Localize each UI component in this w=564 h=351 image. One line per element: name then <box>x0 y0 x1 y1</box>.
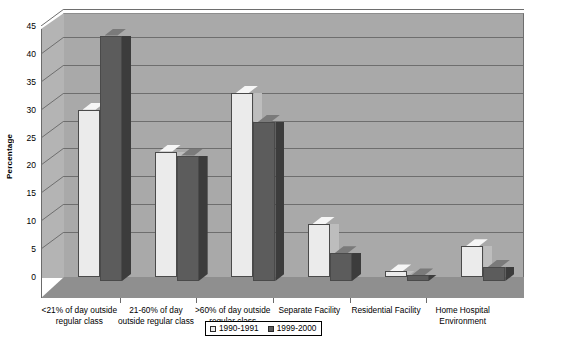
x-axis-tick-mark <box>273 298 274 303</box>
bar-top-face <box>159 145 181 152</box>
bar-front-face <box>155 152 177 278</box>
chart-legend: 1990-1991 1999-2000 <box>205 321 322 336</box>
bar-front-face <box>330 253 352 281</box>
y-axis-tick-label: 30 <box>14 106 36 114</box>
x-axis-tick-mark <box>196 298 197 303</box>
gridline <box>64 9 524 10</box>
bar[interactable] <box>461 246 483 277</box>
bar-front-face <box>461 246 483 277</box>
bar-side-face <box>505 267 514 281</box>
bar-series-container <box>41 13 524 298</box>
legend-label: 1990-1991 <box>219 324 259 333</box>
x-axis-tick-mark <box>350 298 351 303</box>
legend-label: 1999-2000 <box>277 324 317 333</box>
bar-top-face <box>105 29 127 36</box>
legend-item-1990-1991[interactable]: 1990-1991 <box>210 324 259 333</box>
y-axis-tick-label: 25 <box>14 134 36 142</box>
bar[interactable] <box>231 93 253 277</box>
legend-swatch-icon <box>268 326 274 332</box>
bar-front-face <box>483 267 505 281</box>
bar-front-face <box>385 271 407 277</box>
bar-top-face <box>236 86 258 93</box>
y-axis-tick-label: 45 <box>14 22 36 30</box>
bar[interactable] <box>483 267 505 281</box>
bar-side-face <box>352 253 361 281</box>
bar-top-face <box>411 268 433 275</box>
bar[interactable] <box>155 152 177 278</box>
plot-area <box>41 13 524 298</box>
bar[interactable] <box>100 36 122 281</box>
bar[interactable] <box>177 156 199 282</box>
bar-front-face <box>308 224 330 277</box>
bar[interactable] <box>385 271 407 277</box>
x-axis-tick-mark <box>120 298 121 303</box>
bar-chart: Percentage 051015202530354045 <21% of da… <box>0 0 564 351</box>
bar-side-face <box>199 156 208 282</box>
x-axis-tick-mark <box>426 298 427 303</box>
y-axis-tick-label: 40 <box>14 50 36 58</box>
bar[interactable] <box>78 110 100 277</box>
x-axis-ticks <box>41 298 524 304</box>
bar-front-face <box>100 36 122 281</box>
bar[interactable] <box>330 253 352 281</box>
y-axis-tick-label: 15 <box>14 189 36 197</box>
y-axis-tick-labels: 051015202530354045 <box>10 0 36 351</box>
y-axis-tick-label: 35 <box>14 78 36 86</box>
x-axis-category-label: Home Hospital Environment <box>410 305 515 326</box>
bar-top-face <box>313 217 335 224</box>
bar-front-face <box>231 93 253 277</box>
y-axis-tick-label: 10 <box>14 217 36 225</box>
bar[interactable] <box>308 224 330 277</box>
bar-front-face <box>78 110 100 277</box>
bar-side-face <box>122 36 131 281</box>
bar-side-face <box>275 122 284 281</box>
y-axis-tick-label: 0 <box>14 273 36 281</box>
bar[interactable] <box>253 122 275 281</box>
legend-swatch-icon <box>210 326 216 332</box>
legend-item-1999-2000[interactable]: 1999-2000 <box>268 324 317 333</box>
bar-front-face <box>177 156 199 282</box>
bar-side-face <box>429 275 438 281</box>
y-axis-tick-label: 20 <box>14 161 36 169</box>
bar-front-face <box>253 122 275 281</box>
bar-top-face <box>466 239 488 246</box>
bar[interactable] <box>407 275 429 281</box>
bar-front-face <box>407 275 429 281</box>
bar-top-face <box>389 264 411 271</box>
y-axis-tick-label: 5 <box>14 245 36 253</box>
